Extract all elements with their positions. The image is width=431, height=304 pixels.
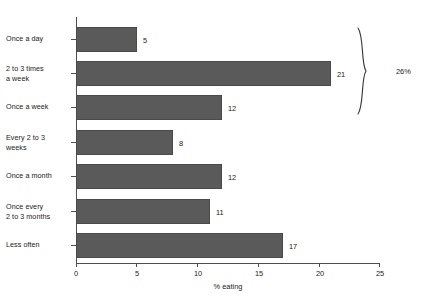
bar-value-3: 8 [179,139,183,148]
x-tick-label-5: 25 [376,269,384,278]
category-label-text: Once a day [6,34,43,43]
category-label-text: 2 to 3 times a week [6,64,44,83]
category-label-1: 2 to 3 times a week [6,64,68,83]
bar-value-4: 12 [228,173,236,182]
category-label-4: Once a month [6,169,68,183]
bar-value-0: 5 [143,36,147,45]
x-tick-label-2: 10 [194,269,202,278]
category-label-0: Once a day [6,32,68,46]
category-label-3: Every 2 to 3 weeks [6,133,68,152]
bar-2 [76,95,222,120]
x-axis-title: % eating [214,282,243,291]
bar-0 [76,27,137,52]
bar-5 [76,199,210,224]
x-tick-5 [136,263,137,267]
bar-3 [76,130,173,155]
category-label-text: Less often [6,240,40,249]
bar-4 [76,164,222,189]
bar-6 [76,233,283,258]
category-label-text: Once every 2 to 3 months [6,202,50,221]
x-tick-0 [76,263,77,267]
bar-value-5: 11 [216,208,224,217]
group-bracket [355,26,371,116]
category-label-text: Once a month [6,171,52,180]
bar-1 [76,61,331,86]
x-tick-25 [379,263,380,267]
x-tick-label-3: 15 [255,269,263,278]
x-tick-label-0: 0 [74,269,78,278]
category-label-2: Once a week [6,100,68,114]
horizontal-bar-chart: 0 5 10 15 20 25 % eating Once a day 2 to… [0,0,431,304]
category-label-text: Once a week [6,102,49,111]
category-label-5: Once every 2 to 3 months [6,202,68,221]
x-axis-line [76,263,380,264]
x-tick-label-4: 20 [316,269,324,278]
category-label-6: Less often [6,238,68,252]
bar-value-1: 21 [337,70,345,79]
bracket-icon [355,26,371,116]
group-bracket-label: 26% [396,67,411,76]
bar-value-2: 12 [228,104,236,113]
category-label-text: Every 2 to 3 weeks [6,133,45,152]
x-tick-10 [197,263,198,267]
bar-value-6: 17 [289,242,297,251]
x-tick-label-1: 5 [135,269,139,278]
x-tick-15 [258,263,259,267]
x-tick-20 [319,263,320,267]
